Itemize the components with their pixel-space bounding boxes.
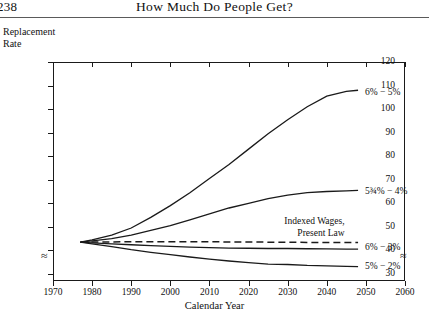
- x-axis-title: Calendar Year: [0, 300, 429, 311]
- curve-label-6-5-: 6% − 5%: [365, 87, 400, 97]
- x-tick-label: 2060: [385, 287, 425, 297]
- x-tick: [405, 281, 406, 286]
- x-tick: [288, 281, 289, 286]
- curve-5-2-: [80, 242, 358, 266]
- x-tick-label: 1970: [33, 287, 73, 297]
- y-axis-break-icon: ≈: [41, 251, 48, 261]
- x-tick: [366, 281, 367, 286]
- x-tick-label: 2020: [229, 287, 269, 297]
- x-tick-label: 2030: [268, 287, 308, 297]
- x-tick-label: 2010: [189, 287, 229, 297]
- x-tick-label: 1990: [111, 287, 151, 297]
- y-axis-title: Replacement Rate: [3, 26, 55, 49]
- y-axis-title-line2: Rate: [3, 38, 55, 50]
- x-tick: [170, 281, 171, 286]
- curve-indexed-wages-present-law: [80, 242, 358, 243]
- curve-label-line1: Indexed Wages,: [284, 216, 344, 228]
- x-tick: [209, 281, 210, 286]
- x-tick: [92, 281, 93, 286]
- x-tick-label: 2000: [150, 287, 190, 297]
- chart-curves: [53, 62, 405, 281]
- curve-label-line2: Present Law: [284, 228, 344, 240]
- chart-plot-area: 30405060708090100110120 1970198019902000…: [53, 62, 405, 281]
- x-tick: [53, 281, 54, 286]
- header-rule: [0, 17, 429, 18]
- y-axis-break-right-icon: ≈: [400, 251, 407, 261]
- x-tick: [327, 281, 328, 286]
- figure-page: 238 How Much Do People Get? Replacement …: [0, 0, 429, 317]
- x-tick: [131, 281, 132, 286]
- curve-label-5-2-: 5% − 2%: [365, 261, 400, 271]
- running-head: How Much Do People Get?: [0, 0, 429, 15]
- curve-label-indexed-wages-present-law: Indexed Wages,Present Law: [284, 216, 344, 239]
- x-tick-top: [405, 62, 406, 67]
- x-tick-label: 2040: [307, 287, 347, 297]
- x-tick: [249, 281, 250, 286]
- curve-label-6-3-: 6% − 3%: [365, 242, 400, 252]
- x-tick-label: 1980: [72, 287, 112, 297]
- y-axis-title-line1: Replacement: [3, 26, 55, 38]
- curve-label-5-3-4-4-: 5¾% − 4%: [365, 186, 408, 196]
- x-tick-label: 2050: [346, 287, 386, 297]
